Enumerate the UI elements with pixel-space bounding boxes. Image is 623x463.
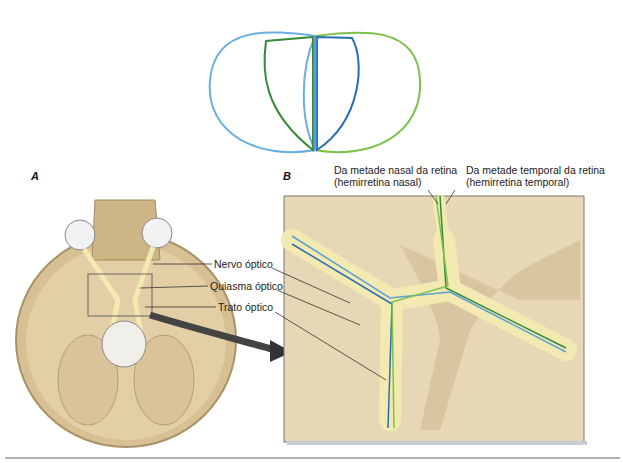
optic-nerve-label: Nervo óptico	[214, 258, 273, 270]
panel-b-letter: B	[283, 170, 291, 182]
figure-canvas	[0, 0, 623, 463]
nasal-retina-line2: (hemirretina nasal)	[334, 176, 457, 188]
panel-a-letter: A	[31, 170, 39, 182]
nasal-retina-line1: Da metade nasal da retina	[334, 164, 457, 176]
chiasm-closeup-illustration	[284, 196, 587, 445]
temporal-retina-line2: (hemirretina temporal)	[466, 176, 605, 188]
visual-fields-diagram	[210, 32, 420, 152]
skull-base-illustration	[16, 200, 236, 447]
temporal-retina-label: Da metade temporal da retina (hemirretin…	[466, 164, 605, 188]
nasal-retina-label: Da metade nasal da retina (hemirretina n…	[334, 164, 457, 188]
temporal-retina-line1: Da metade temporal da retina	[466, 164, 605, 176]
optic-tract-label: Trato óptico	[218, 301, 273, 313]
optic-chiasm-label: Quiasma óptico	[210, 280, 283, 292]
